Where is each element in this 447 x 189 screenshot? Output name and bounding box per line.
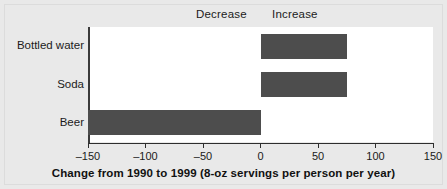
category-labels: Bottled waterSodaBeer (0, 0, 84, 189)
x-tick-4 (318, 143, 319, 148)
x-axis-title: Change from 1990 to 1999 (8-oz servings … (0, 167, 447, 179)
x-tick-label-5: 100 (356, 150, 396, 162)
x-tick-1 (145, 143, 146, 148)
x-tick-label-6: 150 (413, 150, 447, 162)
bar-beer (88, 110, 261, 135)
x-tick-label-2: –50 (183, 150, 223, 162)
chart-figure: Decrease Increase –150–100–50050100150 B… (0, 0, 447, 189)
increase-zone-label: Increase (272, 8, 318, 20)
category-label-bottled-water: Bottled water (2, 39, 84, 51)
x-tick-5 (375, 143, 376, 148)
x-tick-0 (88, 143, 89, 148)
bar-soda (261, 72, 347, 97)
x-tick-label-1: –100 (126, 150, 166, 162)
x-tick-label-3: 0 (241, 150, 281, 162)
bar-bottled-water (261, 34, 347, 59)
x-tick-label-4: 50 (298, 150, 338, 162)
decrease-zone-label: Decrease (196, 8, 247, 20)
category-label-soda: Soda (2, 78, 84, 90)
category-label-beer: Beer (2, 116, 84, 128)
x-tick-2 (203, 143, 204, 148)
x-tick-3 (260, 143, 261, 148)
x-tick-6 (433, 143, 434, 148)
